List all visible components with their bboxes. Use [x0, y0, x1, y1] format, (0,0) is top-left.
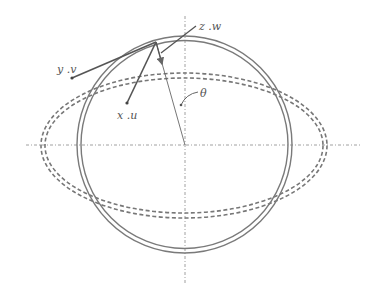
coordinate-diagram: z .w y .v x .u θ: [0, 0, 373, 294]
theta-leader: [181, 92, 198, 105]
theta-label: θ: [200, 87, 207, 100]
x-u-direction-line: [127, 42, 156, 103]
y-v-point: [70, 76, 73, 79]
z-w-direction-line: [161, 26, 196, 53]
x-u-label: x .u: [117, 109, 137, 122]
y-v-direction-line: [72, 42, 156, 78]
theta-arrow-dot: [180, 104, 183, 107]
outer-dashed-ellipse: [41, 73, 327, 218]
x-u-point: [125, 101, 128, 104]
y-v-label: y .v: [56, 63, 77, 76]
z-w-label: z .w: [198, 20, 222, 33]
